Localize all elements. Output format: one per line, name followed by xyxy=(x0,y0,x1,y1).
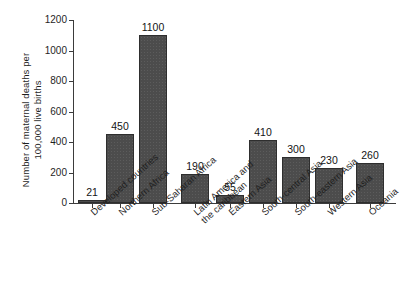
y-tick-label: 800 xyxy=(7,76,67,86)
y-tick-label: 600 xyxy=(7,107,67,117)
y-tick-mark xyxy=(69,203,74,204)
bar-value-label: 1100 xyxy=(131,22,175,33)
y-tick-label: 1200 xyxy=(7,15,67,25)
y-tick-label: 200 xyxy=(7,168,67,178)
bar-chart: Number of maternal deaths per 100,000 li… xyxy=(0,0,403,307)
bar-value-label: 450 xyxy=(98,121,142,132)
y-tick-label: 1000 xyxy=(7,46,67,56)
bar-value-label: 410 xyxy=(241,127,285,138)
bar-value-label: 300 xyxy=(274,144,318,155)
y-tick-label: 0 xyxy=(7,198,67,208)
y-tick-label: 400 xyxy=(7,137,67,147)
